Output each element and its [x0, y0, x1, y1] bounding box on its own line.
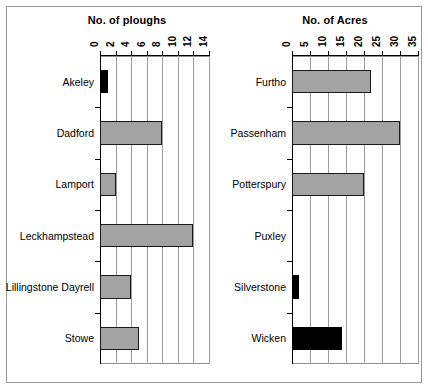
xtick-label: 30 [390, 36, 400, 47]
xtick-mark [116, 51, 117, 56]
gridline [162, 56, 163, 364]
category-label: Akeley [0, 76, 100, 88]
bar-row[interactable]: Potterspury [292, 173, 418, 197]
xtick-label: 35 [408, 36, 418, 47]
bar[interactable] [292, 275, 299, 299]
panels-container: No. of ploughs 02468101214 AkeleyDadford… [6, 6, 422, 383]
category-label: Puxley [92, 230, 292, 242]
xtick-label: 12 [183, 36, 193, 47]
xtick-label: 25 [372, 36, 382, 47]
yaxis-tick [95, 107, 100, 108]
xtick-mark [193, 51, 194, 56]
bar[interactable] [292, 121, 400, 145]
xtick-mark [147, 51, 148, 56]
yaxis-tick [95, 159, 100, 160]
category-label: Stowe [0, 332, 100, 344]
category-label: Silverstone [92, 281, 292, 293]
xtick-label: 5 [300, 41, 310, 47]
xtick-mark [364, 51, 365, 56]
xtick-label: 15 [336, 36, 346, 47]
bar[interactable] [292, 70, 371, 94]
gridline [100, 56, 101, 364]
chart-panel-ploughs: No. of ploughs 02468101214 AkeleyDadford… [6, 6, 214, 383]
xtick-mark [209, 51, 210, 56]
gridline [193, 56, 194, 364]
yaxis-tick [95, 313, 100, 314]
yaxis-tick [287, 159, 292, 160]
xtick-label: 14 [199, 36, 209, 47]
xtick-mark [382, 51, 383, 56]
yaxis-tick [95, 261, 100, 262]
gridline [131, 56, 132, 364]
yaxis-tick [287, 210, 292, 211]
xtick-label: 0 [90, 41, 100, 47]
category-label: Lillingstone Dayrell [0, 281, 100, 293]
yaxis-tick [287, 107, 292, 108]
yaxis-tick [287, 313, 292, 314]
yaxis-tick [287, 261, 292, 262]
gridline [178, 56, 179, 364]
xtick-mark [162, 51, 163, 56]
xtick-label: 10 [168, 36, 178, 47]
gridline [382, 56, 383, 364]
xtick-label: 8 [152, 41, 162, 47]
xtick-label: 0 [282, 41, 292, 47]
bar-row[interactable]: Puxley [292, 224, 418, 248]
plot-wrapper-acres: 05101520253035 FurthoPassenhamPotterspur… [214, 6, 422, 383]
plot-area-acres: 05101520253035 FurthoPassenhamPotterspur… [292, 56, 418, 364]
xtick-label: 2 [106, 41, 116, 47]
gridline [418, 56, 419, 364]
bar[interactable] [292, 327, 342, 351]
category-label: Potterspury [92, 178, 292, 190]
xtick-label: 20 [354, 36, 364, 47]
gridline [116, 56, 117, 364]
xtick-mark [418, 51, 419, 56]
category-label: Dadford [0, 127, 100, 139]
xtick-mark [328, 51, 329, 56]
bar-row[interactable]: Furtho [292, 70, 418, 94]
plot-wrapper-ploughs: 02468101214 AkeleyDadfordLamportLeckhamp… [6, 6, 214, 383]
bar[interactable] [292, 173, 364, 197]
gridline [364, 56, 365, 364]
xtick-mark [131, 51, 132, 56]
gridline [346, 56, 347, 364]
gridline [310, 56, 311, 364]
chart-panel-acres: No. of Acres 05101520253035 FurthoPassen… [214, 6, 422, 383]
xtick-mark [400, 51, 401, 56]
category-label: Lamport [0, 178, 100, 190]
bar-row[interactable]: Silverstone [292, 275, 418, 299]
xtick-mark [292, 51, 293, 56]
figure-root: No. of ploughs 02468101214 AkeleyDadford… [0, 0, 428, 389]
xtick-mark [100, 51, 101, 56]
gridline [209, 56, 210, 364]
gridline [147, 56, 148, 364]
category-label: Furtho [92, 76, 292, 88]
gridline [328, 56, 329, 364]
category-label: Passenham [92, 127, 292, 139]
xtick-mark [178, 51, 179, 56]
category-label: Wicken [92, 332, 292, 344]
plot-area-ploughs: 02468101214 AkeleyDadfordLamportLeckhamp… [100, 56, 209, 364]
xtick-label: 6 [137, 41, 147, 47]
xtick-label: 4 [121, 41, 131, 47]
xtick-mark [310, 51, 311, 56]
xtick-mark [346, 51, 347, 56]
gridline [292, 56, 293, 364]
xtick-label: 10 [318, 36, 328, 47]
bar-row[interactable]: Passenham [292, 121, 418, 145]
category-label: Leckhampstead [0, 230, 100, 242]
yaxis-tick [95, 210, 100, 211]
bar-row[interactable]: Wicken [292, 327, 418, 351]
gridline [400, 56, 401, 364]
